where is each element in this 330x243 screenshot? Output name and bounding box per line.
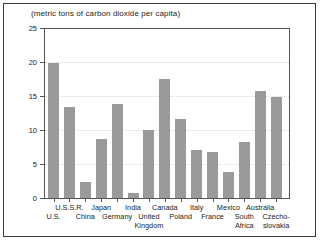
x-tick-mark [54,199,55,202]
y-tick-label: 15 [29,92,37,101]
x-tick-mark [260,199,261,202]
y-tick-mark [40,130,44,131]
y-tick-label: 10 [29,126,37,135]
bar [128,193,139,198]
y-tick-label: 0 [33,194,37,203]
bar [175,119,186,198]
x-tick-mark [149,199,150,202]
x-tick-mark [228,199,229,202]
bar [239,142,250,198]
y-tick-label: 5 [33,160,37,169]
bar [48,63,59,198]
x-tick-mark [213,199,214,202]
bar [191,150,202,198]
x-tick-mark [69,199,70,202]
y-tick-mark [40,164,44,165]
y-tick-label: 20 [29,58,37,67]
bar [143,130,154,198]
gridline [45,62,289,63]
y-tick-mark [40,28,44,29]
x-tick-mark [276,199,277,202]
x-tick-mark [117,199,118,202]
bar [223,172,234,198]
x-tick-mark [181,199,182,202]
bar [271,97,282,198]
x-tick-mark [165,199,166,202]
y-tick-mark [40,62,44,63]
bar [64,107,75,198]
chart-figure: (metric tons of carbon dioxide per capit… [0,0,330,243]
bar [96,139,107,198]
plot-area: 0510152025 [44,28,290,199]
x-tick-mark [133,199,134,202]
bar [80,182,91,198]
bar [159,79,170,198]
y-tick-mark [40,198,44,199]
gridline [45,28,289,29]
bar [207,152,218,198]
x-tick-mark [244,199,245,202]
x-tick-mark [101,199,102,202]
y-tick-label: 25 [29,24,37,33]
bar [255,91,266,198]
bar [112,104,123,198]
x-tick-mark [85,199,86,202]
y-tick-mark [40,96,44,97]
chart-title: (metric tons of carbon dioxide per capit… [31,9,180,18]
x-tick-mark [197,199,198,202]
